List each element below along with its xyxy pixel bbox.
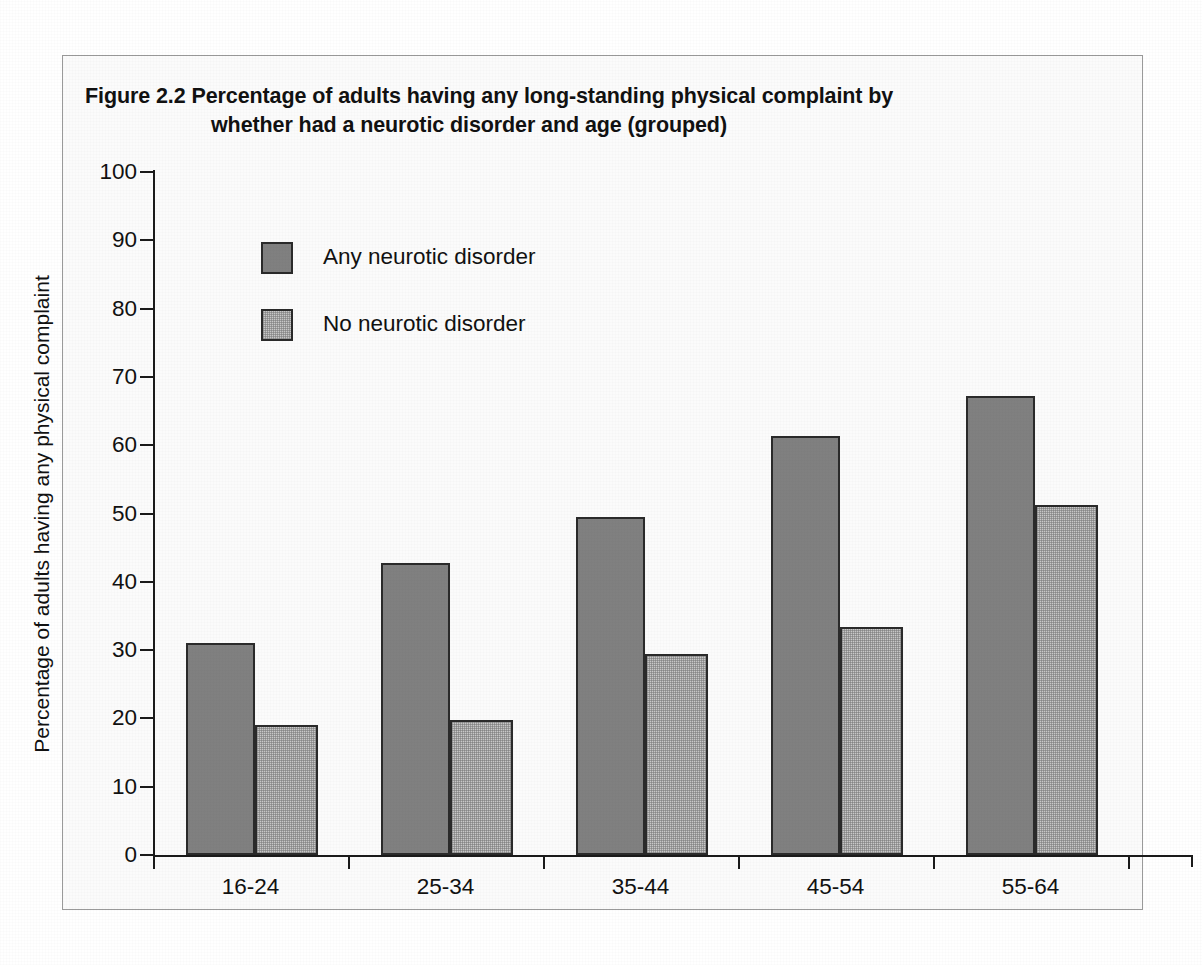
y-axis-tick-label: 60 <box>112 432 137 458</box>
y-axis-tick-label: 90 <box>112 227 137 253</box>
y-axis-tick <box>140 581 153 583</box>
page-canvas: Figure 2.2 Percentage of adults having a… <box>0 0 1202 965</box>
figure-frame: Figure 2.2 Percentage of adults having a… <box>62 55 1143 910</box>
bar-55-64-any-neurotic-disorder <box>966 396 1035 855</box>
x-axis-category-label: 35-44 <box>612 874 670 900</box>
y-axis-title-label: Percentage of adults having any physical… <box>30 275 54 752</box>
y-axis-tick <box>140 717 153 719</box>
figure-title-line-1: Figure 2.2 Percentage of adults having a… <box>85 82 1115 111</box>
x-axis-tick <box>348 855 350 869</box>
bar-25-34-any-neurotic-disorder <box>381 563 450 855</box>
figure-title-line-2: whether had a neurotic disorder and age … <box>85 111 1115 140</box>
legend-label: Any neurotic disorder <box>323 244 536 270</box>
y-axis-tick-label: 80 <box>112 296 137 322</box>
y-axis-tick <box>140 786 153 788</box>
legend-swatch <box>261 309 293 341</box>
y-axis-tick-label: 0 <box>124 842 137 868</box>
y-axis-tick <box>140 649 153 651</box>
bar-55-64-no-neurotic-disorder <box>1035 505 1098 855</box>
y-axis-tick-labels: 0102030405060708090100 <box>69 172 137 855</box>
x-axis-category-label: 45-54 <box>807 874 865 900</box>
x-axis-tick <box>153 855 155 869</box>
x-axis-category-label: 16-24 <box>222 874 280 900</box>
legend-label: No neurotic disorder <box>323 311 526 337</box>
plot-area: 0102030405060708090100 16-2425-3435-4445… <box>153 172 1128 855</box>
x-axis-category-label: 25-34 <box>417 874 475 900</box>
y-axis-tick-label: 30 <box>112 637 137 663</box>
x-axis-tick <box>543 855 545 869</box>
y-axis-tick-label: 70 <box>112 364 137 390</box>
y-axis-tick-label: 40 <box>112 569 137 595</box>
y-axis-line <box>153 170 155 857</box>
y-axis-tick <box>140 444 153 446</box>
x-axis-tick <box>738 855 740 869</box>
y-axis-tick <box>140 171 153 173</box>
y-axis-tick <box>140 854 153 856</box>
x-axis-line <box>153 855 1193 857</box>
bar-35-44-no-neurotic-disorder <box>645 654 708 855</box>
bar-16-24-any-neurotic-disorder <box>186 643 255 855</box>
y-axis-tick <box>140 239 153 241</box>
bar-45-54-no-neurotic-disorder <box>840 627 903 855</box>
y-axis-tick <box>140 513 153 515</box>
bar-45-54-any-neurotic-disorder <box>771 436 840 855</box>
y-axis-tick-label: 10 <box>112 774 137 800</box>
y-axis-tick-label: 50 <box>112 501 137 527</box>
bar-35-44-any-neurotic-disorder <box>576 517 645 855</box>
y-axis-tick <box>140 308 153 310</box>
x-axis-tick <box>933 855 935 869</box>
figure-title: Figure 2.2 Percentage of adults having a… <box>85 82 1115 140</box>
x-axis-end-tick <box>1191 855 1193 867</box>
y-axis-title: Percentage of adults having any physical… <box>27 172 57 855</box>
bar-25-34-no-neurotic-disorder <box>450 720 513 855</box>
bar-16-24-no-neurotic-disorder <box>255 725 318 855</box>
y-axis-tick-label: 100 <box>99 159 137 185</box>
y-axis-tick <box>140 376 153 378</box>
x-axis-category-label: 55-64 <box>1002 874 1060 900</box>
x-axis-tick <box>1128 855 1130 869</box>
y-axis-tick-label: 20 <box>112 705 137 731</box>
legend-swatch <box>261 242 293 274</box>
